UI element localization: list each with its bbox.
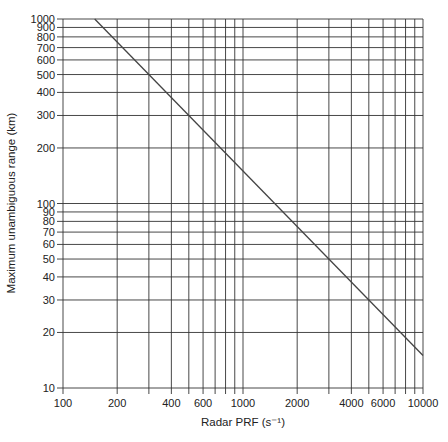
y-tick-label: 20 bbox=[43, 326, 55, 338]
y-axis-ticks: 1020304050607080901002003004005006007008… bbox=[31, 13, 55, 394]
y-tick-label: 200 bbox=[37, 142, 55, 154]
y-tick-label: 10 bbox=[43, 382, 55, 394]
x-axis-ticks: 100200400600100020004000600010000 bbox=[54, 397, 438, 409]
y-tick-label: 70 bbox=[43, 226, 55, 238]
x-tick-label: 200 bbox=[108, 397, 126, 409]
chart: 1020304050607080901002003004005006007008… bbox=[0, 0, 448, 442]
y-tick-label: 100 bbox=[37, 198, 55, 210]
series-line bbox=[95, 19, 423, 356]
x-tick-label: 400 bbox=[162, 397, 180, 409]
y-tick-label: 1000 bbox=[31, 13, 55, 25]
y-tick-label: 300 bbox=[37, 109, 55, 121]
y-tick-label: 700 bbox=[37, 42, 55, 54]
y-tick-label: 60 bbox=[43, 238, 55, 250]
vertical-gridlines bbox=[63, 19, 423, 394]
x-tick-label: 2000 bbox=[285, 397, 309, 409]
horizontal-gridlines bbox=[57, 19, 423, 388]
x-tick-label: 600 bbox=[194, 397, 212, 409]
y-tick-label: 40 bbox=[43, 271, 55, 283]
y-axis-title: Maximum unambiguous range (km) bbox=[5, 112, 17, 293]
y-tick-label: 30 bbox=[43, 294, 55, 306]
series-group bbox=[95, 19, 423, 356]
x-tick-label: 100 bbox=[54, 397, 72, 409]
x-tick-label: 1000 bbox=[231, 397, 255, 409]
y-tick-label: 400 bbox=[37, 86, 55, 98]
x-tick-label: 10000 bbox=[408, 397, 439, 409]
x-tick-label: 4000 bbox=[339, 397, 363, 409]
y-tick-label: 500 bbox=[37, 69, 55, 81]
x-tick-label: 6000 bbox=[371, 397, 395, 409]
y-tick-label: 600 bbox=[37, 54, 55, 66]
y-tick-label: 50 bbox=[43, 253, 55, 265]
x-axis-title: Radar PRF (s⁻¹) bbox=[201, 416, 285, 428]
